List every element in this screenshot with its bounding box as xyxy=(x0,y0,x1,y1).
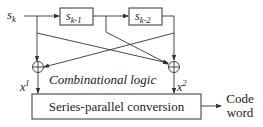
svg-text:sk: sk xyxy=(7,7,17,24)
right-xor-icon xyxy=(169,62,180,73)
sk2-tap-to-left-xor xyxy=(44,33,174,67)
x2-label: x2 xyxy=(176,78,187,94)
code-word-label: Code word xyxy=(226,91,254,120)
register-sk-2: sk-2 xyxy=(129,8,162,25)
sk-diagonal-to-right-xor xyxy=(37,33,168,63)
left-xor-icon xyxy=(33,62,44,73)
svg-text:x2: x2 xyxy=(176,78,187,94)
svg-text:x1: x1 xyxy=(19,78,30,94)
svg-text:Series-parallel conversion: Series-parallel conversion xyxy=(49,99,185,114)
register-sk-1: sk-1 xyxy=(60,8,93,25)
series-parallel-converter-box: Series-parallel conversion xyxy=(32,94,201,119)
convolutional-encoder-diagram: sk sk-1 sk-2 Combinational logic xyxy=(0,0,263,127)
svg-text:Code: Code xyxy=(226,91,254,106)
register2-output-line xyxy=(162,16,174,60)
input-label-sk: sk xyxy=(7,7,17,24)
svg-text:word: word xyxy=(227,105,254,120)
x1-label: x1 xyxy=(19,78,30,94)
combinational-logic-label: Combinational logic xyxy=(49,72,156,87)
